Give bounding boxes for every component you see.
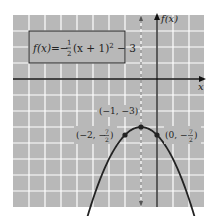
eq-body: (x + 1) — [73, 42, 109, 54]
svg-text:7: 7 — [189, 128, 193, 135]
parabola-chart: x f(x) f(x)=− 1 2 (x + 1)2 − 3 (−1, −3) — [0, 0, 212, 216]
svg-text:2: 2 — [189, 136, 193, 143]
svg-text:): ) — [110, 130, 114, 140]
eq-frac-num: 1 — [67, 39, 71, 47]
y-axis-label: f(x) — [160, 13, 178, 24]
svg-text:2: 2 — [105, 136, 109, 143]
point-left — [122, 132, 127, 137]
vertex-point — [138, 124, 143, 129]
eq-frac-den: 2 — [67, 50, 71, 58]
right-point-label-pre: (0, − — [165, 130, 188, 140]
equation-box: f(x)=− 1 2 (x + 1)2 − 3 — [29, 31, 136, 63]
left-point-label-pre: (−2, − — [76, 130, 106, 140]
x-axis-label: x — [198, 81, 204, 92]
svg-text:(x + 1)2 − 3: (x + 1)2 − 3 — [73, 42, 136, 54]
eq-lhs: f(x) — [32, 42, 51, 54]
vertex-label: (−1, −3) — [99, 106, 138, 116]
svg-text:): ) — [194, 130, 198, 140]
point-right — [154, 132, 159, 137]
svg-text:f(x)=−: f(x)=− — [32, 42, 69, 54]
svg-text:7: 7 — [105, 128, 109, 135]
